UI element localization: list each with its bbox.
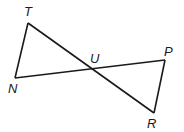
segment-tn [15, 23, 28, 78]
vertex-label-n: N [8, 81, 18, 96]
vertex-label-t: T [24, 4, 33, 19]
vertex-label-p: P [164, 44, 173, 59]
segment-pr [154, 60, 165, 113]
vertex-label-r: R [147, 116, 156, 131]
segment-tr [28, 23, 154, 113]
vertex-label-u: U [90, 51, 100, 66]
geometry-diagram: T N U P R [0, 0, 184, 132]
